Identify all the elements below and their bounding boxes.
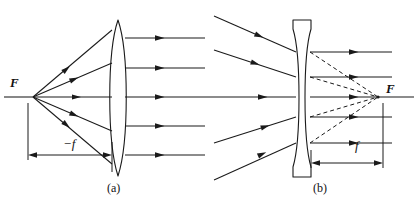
arrow-icon-a-10 xyxy=(155,152,165,158)
virtual-ray-b-3 xyxy=(310,97,378,117)
arrow-icon-a-7 xyxy=(155,65,165,71)
diverging-lens xyxy=(293,20,311,177)
dimension-arrow-b-left xyxy=(311,160,320,165)
focal-point-label-left: F xyxy=(10,76,19,89)
panel-b-group xyxy=(208,16,414,180)
focal-length-label-a: −f xyxy=(63,137,75,150)
exit-rays-b xyxy=(310,52,414,143)
focal-length-dimension-a xyxy=(28,103,112,160)
arrow-icon-a-2 xyxy=(69,75,79,83)
source-ray-a-1 xyxy=(33,30,112,97)
incoming-ray-b-4 xyxy=(214,117,296,143)
arrow-icon-b-6 xyxy=(349,49,359,55)
focal-point-label-right: F xyxy=(386,82,395,95)
lens-ray-diagram-figure: F F −f f (a) (b) xyxy=(0,0,416,205)
virtual-ray-b-1 xyxy=(310,52,378,97)
exit-rays-a xyxy=(125,38,208,155)
virtual-ray-b-2 xyxy=(310,77,378,97)
diagram-canvas xyxy=(0,0,416,205)
incoming-rays-b xyxy=(208,16,296,180)
dimension-arrow-a-right xyxy=(103,152,112,157)
arrow-icon-a-8 xyxy=(155,94,165,100)
arrow-icon-a-9 xyxy=(155,123,165,129)
focal-point-dot-b xyxy=(376,95,379,98)
incoming-ray-arrowheads-b xyxy=(250,32,270,159)
arrow-icon-b-4 xyxy=(260,123,270,131)
panel-caption-b: (b) xyxy=(313,182,327,194)
arrow-icon-b-3 xyxy=(258,94,268,100)
arrow-icon-a-6 xyxy=(155,35,165,41)
arrow-icon-b-7 xyxy=(349,74,359,80)
dimension-arrow-b-right xyxy=(374,160,383,165)
arrow-icon-a-4 xyxy=(69,111,79,119)
panel-caption-a: (a) xyxy=(107,182,120,194)
arrow-icon-a-3 xyxy=(72,94,81,99)
arrow-icon-b-2 xyxy=(250,59,260,67)
incoming-ray-b-5 xyxy=(214,143,296,180)
arrow-icon-b-1 xyxy=(254,32,264,41)
focal-length-label-b: f xyxy=(355,139,359,152)
panel-a-group xyxy=(4,20,208,176)
arrow-icon-b-9 xyxy=(349,114,359,120)
focal-length-dimension-b xyxy=(311,103,383,168)
dimension-arrow-a-left xyxy=(28,152,37,157)
arrow-icon-b-8 xyxy=(349,94,359,100)
virtual-ray-b-4 xyxy=(310,97,378,143)
source-ray-a-5 xyxy=(33,97,112,164)
